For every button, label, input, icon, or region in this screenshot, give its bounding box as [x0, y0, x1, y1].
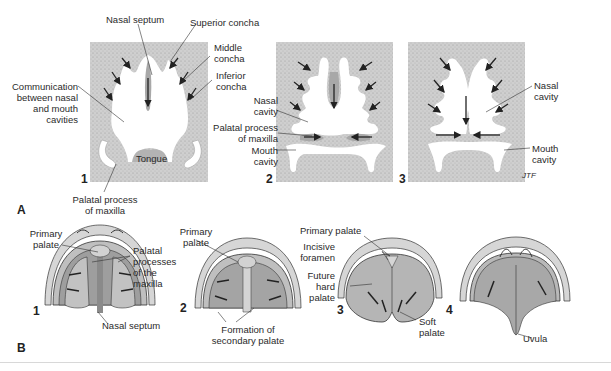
label-palatal-process-a1-2: of maxilla — [70, 205, 140, 216]
label-palatal-process-a2-2: of maxilla — [238, 133, 278, 144]
label-inferior-concha-1: Inferior — [216, 70, 246, 81]
label-inferior-concha-2: concha — [216, 81, 247, 92]
label-palatal-processes-3: of the — [133, 267, 157, 278]
panel-number-a3: 3 — [399, 172, 406, 186]
panel-number-b1: 1 — [33, 304, 40, 318]
label-communication-3: and mouth — [33, 103, 78, 114]
panel-number-a1: 1 — [81, 172, 88, 186]
label-nasal-cavity-a3-1: Nasal — [534, 80, 558, 91]
label-palatal-process-a1-1: Palatal process — [70, 194, 140, 205]
panel-a3-drawing — [408, 42, 532, 182]
panel-number-b4: 4 — [446, 303, 453, 317]
label-incisive-foramen-2: foramen — [300, 252, 335, 263]
label-primary-palate-b3: Primary palate — [300, 225, 361, 236]
label-palatal-processes-4: maxilla — [133, 278, 163, 289]
label-mouth-cavity-a2-2: cavity — [254, 156, 278, 167]
part-label-a: A — [17, 203, 26, 217]
panel-b3-drawing — [338, 238, 442, 322]
label-formation-1: Formation of — [206, 324, 290, 335]
panel-b2-drawing — [195, 238, 301, 312]
label-mouth-cavity-a3-1: Mouth — [532, 143, 558, 154]
label-communication-1: Communication — [12, 81, 78, 92]
label-future-hard-palate-2: hard — [316, 281, 335, 292]
panel-number-b3: 3 — [337, 303, 344, 317]
label-primary-palate-b1-1: Primary — [26, 228, 66, 239]
label-future-hard-palate-3: palate — [309, 292, 335, 303]
label-communication-2: between nasal — [17, 92, 78, 103]
label-palatal-process-a2-1: Palatal process — [213, 122, 278, 133]
label-mouth-cavity-a2-1: Mouth — [252, 145, 278, 156]
label-primary-palate-b1-2: palate — [26, 239, 66, 250]
label-future-hard-palate-1: Future — [308, 270, 335, 281]
label-middle-concha-1: Middle — [214, 42, 242, 53]
panel-number-b2: 2 — [180, 301, 187, 315]
label-uvula: Uvula — [523, 333, 547, 344]
part-label-b: B — [17, 341, 26, 355]
label-palatal-processes-1: Palatal — [133, 245, 162, 256]
label-tongue: Tongue — [136, 153, 167, 164]
diagram-artwork — [0, 0, 611, 371]
label-nasal-cavity-a2-2: cavity — [254, 106, 278, 117]
label-nasal-septum-b1: Nasal septum — [102, 320, 160, 331]
panel-b4-drawing — [460, 237, 570, 335]
label-superior-concha: Superior concha — [190, 17, 259, 28]
label-nasal-septum-a1: Nasal septum — [106, 14, 164, 25]
label-primary-palate-b2-1: Primary — [176, 226, 216, 237]
label-soft-palate-1: Soft — [419, 316, 436, 327]
panel-a2-drawing — [276, 42, 393, 182]
label-formation-2: secondary palate — [206, 335, 290, 346]
label-palatal-processes-2: processes — [133, 256, 176, 267]
label-soft-palate-2: palate — [419, 327, 445, 338]
panel-a1-drawing — [78, 24, 212, 192]
label-nasal-cavity-a3-2: cavity — [534, 91, 558, 102]
label-primary-palate-b2-2: palate — [176, 237, 216, 248]
label-middle-concha-2: concha — [214, 53, 245, 64]
artist-signature: JTF — [522, 170, 536, 181]
label-mouth-cavity-a3-2: cavity — [532, 154, 556, 165]
label-communication-4: cavities — [46, 114, 78, 125]
label-nasal-cavity-a2-1: Nasal — [254, 95, 278, 106]
bottom-divider — [0, 362, 611, 363]
label-incisive-foramen-1: Incisive — [303, 241, 335, 252]
panel-number-a2: 2 — [266, 172, 273, 186]
